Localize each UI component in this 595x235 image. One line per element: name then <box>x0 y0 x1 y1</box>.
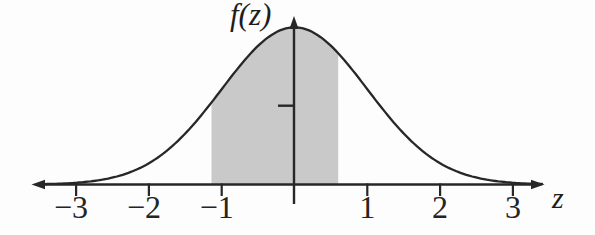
x-tick-label: −3 <box>54 189 88 225</box>
x-axis-left-arrow-icon <box>32 180 46 190</box>
shaded-area <box>212 27 339 184</box>
x-axis-label: z <box>551 181 564 214</box>
x-tick-label: 1 <box>359 189 375 225</box>
x-tick-labels: −3−2−1123 <box>54 189 521 225</box>
x-axis-right-arrow-icon <box>531 180 545 190</box>
x-tick-label: 2 <box>432 189 448 225</box>
x-tick-label: 3 <box>505 189 521 225</box>
x-tick-label: −1 <box>200 189 234 225</box>
x-tick-label: −2 <box>127 189 161 225</box>
normal-distribution-figure: −3−2−1123 f(z) z <box>0 0 595 235</box>
plot-canvas: −3−2−1123 f(z) z <box>0 0 595 235</box>
y-axis-arrow-icon <box>289 16 298 29</box>
y-axis-label: f(z) <box>230 0 271 32</box>
